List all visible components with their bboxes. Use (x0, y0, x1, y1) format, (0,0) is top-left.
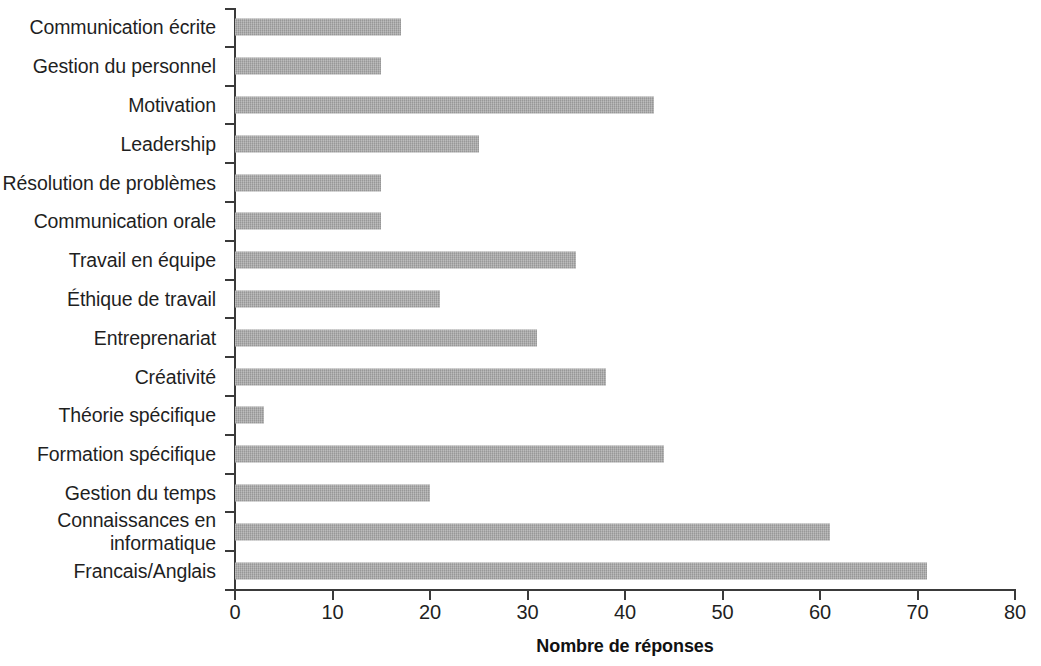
bar-row: Motivation (235, 86, 1015, 125)
y-axis-tick (225, 46, 235, 48)
x-axis-tick (917, 589, 919, 600)
bar (235, 58, 381, 75)
category-label: Motivation (0, 93, 216, 116)
category-label: Entreprenariat (0, 326, 216, 349)
y-axis-tick (225, 395, 235, 397)
bar (235, 19, 401, 36)
bar-row: Créativité (235, 357, 1015, 396)
category-label: Formation spécifique (0, 443, 216, 466)
x-axis-tick (624, 589, 626, 600)
y-axis-tick (225, 550, 235, 552)
bar (235, 96, 654, 113)
x-axis-tick-label: 0 (205, 601, 265, 624)
x-axis-tick-label: 50 (693, 601, 753, 624)
x-axis-title: Nombre de réponses (235, 636, 1015, 657)
bar (235, 174, 381, 191)
bar-row: Communication écrite (235, 8, 1015, 47)
category-label: Francais/Anglais (0, 559, 216, 582)
x-axis-tick (819, 589, 821, 600)
category-label: Leadership (0, 132, 216, 155)
bar-row: Éthique de travail (235, 280, 1015, 319)
bar (235, 484, 430, 501)
x-axis-tick-label: 40 (595, 601, 655, 624)
bar (235, 252, 576, 269)
bar-row: Résolution de problèmes (235, 163, 1015, 202)
bar (235, 446, 664, 463)
category-label: Communication orale (0, 210, 216, 233)
bar (235, 523, 830, 540)
category-label: Théorie spécifique (0, 404, 216, 427)
bar-row: Francais/Anglais (235, 551, 1015, 590)
category-label: Gestion du temps (0, 481, 216, 504)
bar (235, 562, 927, 579)
category-label: Communication écrite (0, 16, 216, 39)
bar (235, 290, 440, 307)
bar-row: Communication orale (235, 202, 1015, 241)
y-axis-tick (225, 123, 235, 125)
x-axis-tick (332, 589, 334, 600)
bar (235, 213, 381, 230)
y-axis-tick (225, 511, 235, 513)
x-axis-tick-label: 30 (498, 601, 558, 624)
x-axis-tick (722, 589, 724, 600)
y-axis-tick (225, 473, 235, 475)
x-axis-tick-label: 20 (400, 601, 460, 624)
y-axis-tick (225, 356, 235, 358)
x-axis-tick-label: 60 (790, 601, 850, 624)
x-axis-tick (1014, 589, 1016, 600)
bar-row: Théorie spécifique (235, 396, 1015, 435)
bar-row: Entreprenariat (235, 318, 1015, 357)
category-label: Connaissances en informatique (0, 509, 216, 555)
bar (235, 368, 606, 385)
category-label: Résolution de problèmes (0, 171, 216, 194)
bar-row: Connaissances en informatique (235, 512, 1015, 551)
x-axis-tick-label: 70 (888, 601, 948, 624)
category-label: Travail en équipe (0, 249, 216, 272)
y-axis-tick (225, 162, 235, 164)
bar (235, 407, 264, 424)
y-axis-tick (225, 317, 235, 319)
x-axis-tick-label: 10 (303, 601, 363, 624)
bar-row: Formation spécifique (235, 435, 1015, 474)
y-axis-tick (225, 434, 235, 436)
bar-row: Gestion du temps (235, 474, 1015, 513)
category-label: Éthique de travail (0, 287, 216, 310)
y-axis-tick (225, 8, 235, 10)
y-axis-tick (225, 240, 235, 242)
x-axis-tick-label: 80 (985, 601, 1041, 624)
y-axis-tick (225, 85, 235, 87)
x-axis-tick (429, 589, 431, 600)
bar-row: Gestion du personnel (235, 47, 1015, 86)
bar-row: Leadership (235, 124, 1015, 163)
bar (235, 329, 537, 346)
origin-tick (225, 589, 235, 591)
category-label: Gestion du personnel (0, 55, 216, 78)
y-axis-tick (225, 279, 235, 281)
y-axis-tick (225, 201, 235, 203)
plot-area: Communication écriteGestion du personnel… (235, 8, 1015, 590)
x-axis-tick (527, 589, 529, 600)
bar-chart: Communication écriteGestion du personnel… (0, 0, 1041, 666)
category-label: Créativité (0, 365, 216, 388)
bar (235, 135, 479, 152)
bar-row: Travail en équipe (235, 241, 1015, 280)
